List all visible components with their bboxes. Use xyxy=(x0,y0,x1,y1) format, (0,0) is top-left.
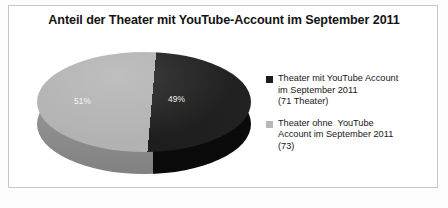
legend-label-with-youtube: Theater mit YouTube Account im September… xyxy=(278,73,398,108)
pie-slice-label-dark: 49% xyxy=(168,94,185,104)
chart-legend: Theater mit YouTube Account im September… xyxy=(266,73,438,163)
legend-swatch-icon-dark xyxy=(266,76,273,83)
legend-item-without-youtube[interactable]: Theater ohne YouTube Account im Septembe… xyxy=(266,118,438,153)
pie-chart-figure: Anteil der Theater mit YouTube-Account i… xyxy=(0,0,448,208)
pie-graphic: 51% 49% xyxy=(37,52,251,177)
legend-item-with-youtube[interactable]: Theater mit YouTube Account im September… xyxy=(266,73,438,108)
legend-swatch-icon-light xyxy=(266,121,273,128)
legend-label-without-youtube: Theater ohne YouTube Account im Septembe… xyxy=(278,118,393,153)
chart-title: Anteil der Theater mit YouTube-Account i… xyxy=(0,13,448,27)
pie-slice-label-light: 51% xyxy=(74,96,91,106)
pie-top-gloss xyxy=(37,52,251,152)
